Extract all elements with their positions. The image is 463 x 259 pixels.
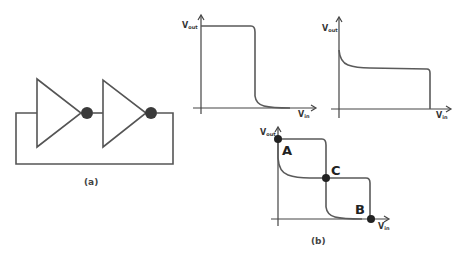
inverter-1-bubble-icon [81,107,93,119]
point-a-label: A [282,143,292,158]
inverter-2-triangle-icon [103,80,146,147]
inverter-1-triangle-icon [37,79,81,147]
point-c-label: C [331,163,341,178]
x-axis-label: Vin [378,222,390,231]
y-axis-label: Vout [182,21,198,30]
point-c-marker [322,174,330,182]
panel-a-circuit: (a) [16,79,173,187]
y-axis-label: Vout [322,24,338,33]
plot-inverter-1-vtc: Vout Vin [182,15,316,119]
y-axis-label: Vout [260,128,276,137]
x-axis-label: Vin [436,111,448,120]
plot-inverter-2-vtc: Vout Vin [322,17,451,120]
inverter-1 [37,79,93,147]
inverter-2 [103,80,157,147]
caption-a: (a) [84,177,98,187]
bistable-latch-figure: (a) Vout Vin Vout Vin A C B [0,0,463,259]
feedback-wire [16,113,173,164]
caption-b: (b) [311,236,326,246]
x-axis-label: Vin [298,110,310,119]
transfer-curve [339,50,430,109]
transfer-curve [201,26,290,108]
point-b-label: B [355,202,365,217]
point-b-marker [367,215,375,223]
plot-combined-vtc: A C B Vout Vin [260,127,390,231]
inverter-2-bubble-icon [145,107,157,119]
